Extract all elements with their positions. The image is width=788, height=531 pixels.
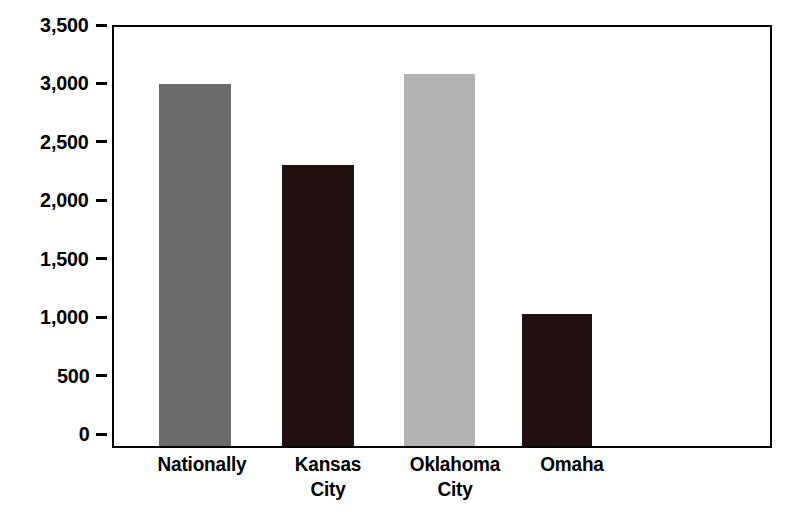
y-axis-tick: 1,000: [37, 308, 112, 326]
y-axis-tick-label: 0: [78, 425, 89, 443]
bar-chart: 3,500 3,000 2,500 2,000 1,500 1,000 500: [0, 0, 788, 531]
y-axis-tick-label: 2,500: [41, 133, 89, 151]
y-axis-tick-dash-icon: [96, 24, 107, 27]
y-axis-tick-dash-icon: [96, 374, 107, 377]
bar-oklahoma-city: [404, 74, 475, 446]
bar-kansas-city: [282, 165, 354, 446]
y-axis-tick: 3,000: [37, 74, 112, 92]
y-axis-tick: 2,500: [37, 133, 112, 151]
y-axis-tick: 0: [78, 425, 112, 443]
x-axis-label-omaha: Omaha: [491, 452, 653, 477]
y-axis-tick-label: 1,000: [41, 308, 89, 326]
y-axis-tick: 2,000: [37, 191, 112, 209]
y-axis-tick-dash-icon: [96, 316, 107, 319]
y-axis-tick-label: 500: [57, 367, 89, 385]
y-axis-tick-label: 1,500: [41, 250, 89, 268]
y-axis-tick: 3,500: [37, 16, 112, 34]
bar-nationally: [159, 84, 231, 446]
y-axis-tick-dash-icon: [96, 257, 107, 260]
x-axis-label-line: Omaha: [491, 452, 653, 477]
x-axis: Nationally Kansas City Oklahoma City Oma…: [112, 452, 772, 522]
y-axis-tick: 1,500: [37, 250, 112, 268]
y-axis: 3,500 3,000 2,500 2,000 1,500 1,000 500: [0, 25, 112, 448]
y-axis-tick-dash-icon: [96, 433, 107, 436]
x-axis-label-line: City: [374, 477, 536, 502]
y-axis-tick-label: 2,000: [41, 191, 89, 209]
plot-area: [112, 25, 772, 448]
y-axis-tick-label: 3,000: [41, 74, 89, 92]
y-axis-tick: 500: [55, 367, 112, 385]
y-axis-tick-dash-icon: [96, 199, 107, 202]
bar-omaha: [522, 314, 592, 446]
y-axis-tick-dash-icon: [96, 140, 107, 143]
plot-inner: [114, 27, 770, 446]
y-axis-tick-label: 3,500: [41, 16, 89, 34]
y-axis-tick-dash-icon: [96, 82, 107, 85]
